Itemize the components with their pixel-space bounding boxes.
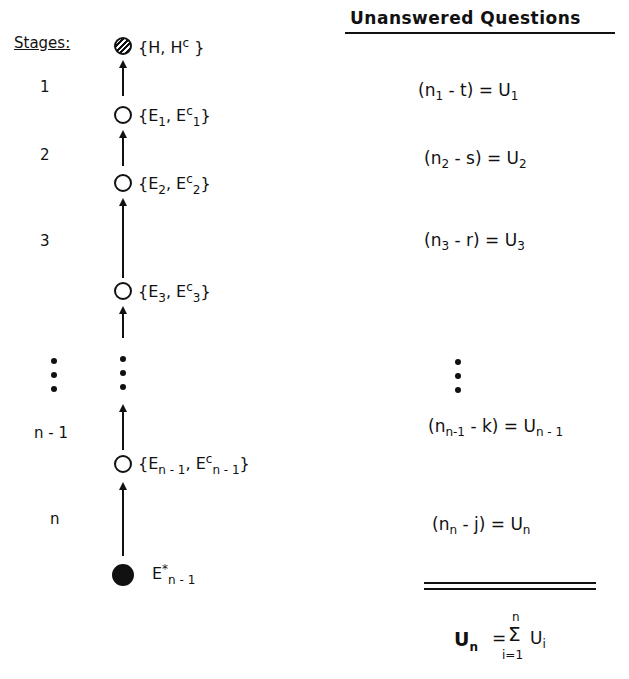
equation-2: (n2 - s) = U2 (424, 148, 527, 171)
stage-label-1: 1 (40, 78, 50, 96)
chain-ellipsis-dot (120, 356, 126, 362)
ellipsis-dot (51, 386, 57, 392)
evidence-node-2-icon (114, 174, 132, 192)
hypothesis-node-icon (114, 37, 132, 55)
evidence-node-n-1-icon (114, 455, 132, 473)
observed-evidence-node-icon (112, 564, 134, 586)
equation-ellipsis-dot (455, 387, 461, 393)
observed-evidence-label: E*n - 1 (152, 562, 195, 587)
edge (122, 410, 124, 450)
ellipsis-dot (51, 372, 57, 378)
evidence-set-2: {E2, Ec2} (138, 172, 211, 197)
edge (122, 488, 124, 556)
edge (122, 312, 124, 338)
unanswered-questions-header: Unanswered Questions (350, 8, 581, 28)
stage-label-n-1: n - 1 (34, 424, 68, 442)
edge (122, 136, 124, 166)
chain-ellipsis-dot (120, 384, 126, 390)
equation-n: (nn - j) = Un (432, 514, 530, 537)
evidence-node-1-icon (114, 106, 132, 124)
double-rule-bottom (424, 588, 596, 590)
stage-label-2: 2 (40, 146, 50, 164)
stage-label-3: 3 (40, 232, 50, 250)
evidence-set-n-1: {En - 1, Ecn - 1} (138, 452, 250, 477)
edge (122, 66, 124, 96)
chain-ellipsis-dot (120, 370, 126, 376)
evidence-set-1: {E1, Ec1} (138, 104, 211, 129)
equation-ellipsis-dot (455, 373, 461, 379)
hypothesis-set: {H, Hc } (138, 36, 204, 57)
equation-3: (n3 - r) = U3 (424, 230, 525, 253)
evidence-node-3-icon (114, 282, 132, 300)
equation-ellipsis-dot (455, 359, 461, 365)
header-underline (345, 32, 615, 34)
stages-header: Stages: (14, 34, 70, 52)
equation-n-1: (nn-1 - k) = Un - 1 (428, 416, 563, 439)
evidence-set-3: {E3, Ec3} (138, 280, 211, 305)
total-equation: Un = n Σ i=1 Ui (454, 608, 594, 668)
equation-1: (n1 - t) = U1 (418, 80, 518, 103)
double-rule-top (424, 582, 596, 584)
edge (122, 204, 124, 278)
ellipsis-dot (51, 358, 57, 364)
stage-label-n: n (50, 510, 60, 528)
